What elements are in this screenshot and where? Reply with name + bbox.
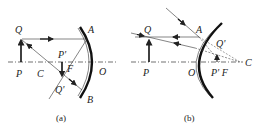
figure-b: Q A Q' P O P' F C (b) [131,8,252,123]
caption-b: (b) [184,113,195,123]
ray-arrow-3 [69,79,76,85]
concave-mirror [80,27,92,98]
label-Q-prime-a: Q' [55,84,65,95]
figure-a: Q A P' C F O P Q' B (a) [8,24,118,123]
label-Q-prime-b: Q' [216,38,226,49]
label-P-prime-F-b: P' F [210,67,229,78]
label-A-b: A [195,24,203,35]
label-P-prime-a: P' [57,49,67,60]
label-C-a: C [37,68,44,79]
label-Q-a: Q [15,24,23,35]
label-C-b: C [245,57,252,68]
label-P-a: P [15,68,22,79]
label-F-a: F [66,63,74,74]
ray-arrow-6 [137,35,144,37]
label-B-a: B [87,94,93,105]
label-O-b: O [188,67,195,78]
label-P-b: P [142,67,149,78]
label-Q-b: Q [144,24,152,35]
label-A-a: A [87,24,95,35]
ray-arrow-4 [178,19,185,25]
ray-arrow-7 [174,43,181,45]
ray-arrow-2 [27,44,32,48]
mirror-diagrams: Q A P' C F O P Q' B (a) [0,0,262,138]
label-O-a: O [99,66,106,77]
caption-a: (a) [56,113,66,123]
